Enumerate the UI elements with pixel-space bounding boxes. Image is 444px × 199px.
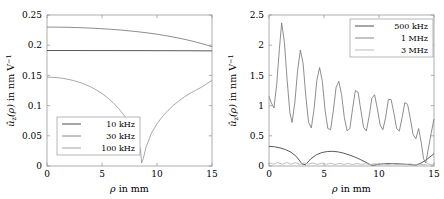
- x-tick-label: 15: [206, 169, 218, 179]
- x-tick-label: 5: [99, 169, 105, 179]
- low-frequency-panel: 05101500.050.10.150.20.25ρin mmûz(ρ)in n…: [0, 0, 222, 199]
- two-panel-figure: 05101500.050.10.150.20.25ρin mmûz(ρ)in n…: [0, 0, 444, 199]
- legend-label: 1 MHz: [401, 34, 428, 43]
- y-tick-label: 0.1: [28, 101, 42, 111]
- x-tick-label: 10: [151, 169, 163, 179]
- x-tick-label: 5: [321, 169, 327, 179]
- x-tick-label: 0: [266, 169, 272, 179]
- x-tick-label: 15: [428, 169, 440, 179]
- legend: 10 kHz30 kHz100 kHz: [57, 117, 140, 155]
- y-tick-label: 1: [258, 101, 264, 111]
- svg-text:ρin mm: ρin mm: [331, 183, 371, 194]
- legend: 500 kHz1 MHz3 MHz: [350, 19, 433, 57]
- x-axis-title: ρin mm: [331, 183, 371, 194]
- legend-label: 10 kHz: [106, 120, 135, 129]
- x-axis-title: ρin mm: [109, 183, 149, 194]
- y-tick-label: 0: [36, 161, 42, 171]
- y-tick-label: 0: [258, 161, 264, 171]
- y-axis-title: ûz(ρ)in nm V−1: [5, 54, 19, 126]
- y-axis-title: ûz(ρ)in nm V−1: [227, 54, 241, 126]
- legend-label: 30 kHz: [106, 132, 135, 141]
- svg-text:ûz(ρ)in nm V−1: ûz(ρ)in nm V−1: [5, 54, 19, 126]
- series-line: [47, 27, 212, 47]
- right-plot-svg: 05101500.511.522.5ρin mmûz(ρ)in nm V−150…: [222, 0, 444, 199]
- x-tick-label: 10: [373, 169, 385, 179]
- y-tick-label: 2.5: [250, 10, 265, 20]
- high-frequency-panel: 05101500.511.522.5ρin mmûz(ρ)in nm V−150…: [222, 0, 444, 199]
- legend-label: 500 kHz: [394, 22, 428, 31]
- legend-label: 100 kHz: [101, 144, 135, 153]
- y-tick-label: 0.15: [22, 71, 42, 81]
- svg-text:ρin mm: ρin mm: [109, 183, 149, 194]
- series-line: [269, 146, 434, 165]
- svg-text:ûz(ρ)in nm V−1: ûz(ρ)in nm V−1: [227, 54, 241, 126]
- series-line: [269, 162, 434, 164]
- left-plot-svg: 05101500.050.10.150.20.25ρin mmûz(ρ)in n…: [0, 0, 222, 199]
- y-tick-label: 0.25: [22, 10, 42, 20]
- y-tick-label: 0.05: [22, 131, 42, 141]
- legend-label: 3 MHz: [401, 46, 428, 55]
- y-tick-label: 2: [258, 40, 264, 50]
- y-tick-label: 0.5: [250, 131, 265, 141]
- x-tick-label: 0: [44, 169, 50, 179]
- y-tick-label: 0.2: [28, 40, 42, 50]
- y-tick-label: 1.5: [250, 71, 265, 81]
